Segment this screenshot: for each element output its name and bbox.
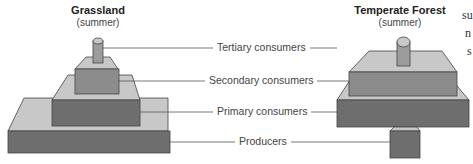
forest-subtitle: (summer) bbox=[350, 17, 450, 28]
label-producers: Producers bbox=[235, 135, 291, 147]
label-tertiary-consumers: Tertiary consumers bbox=[213, 41, 310, 53]
grassland-subtitle: (summer) bbox=[60, 17, 136, 28]
side-text-1: su bbox=[462, 8, 473, 23]
label-primary-consumers: Primary consumers bbox=[213, 105, 311, 117]
label-secondary-consumers: Secondary consumers bbox=[205, 74, 317, 86]
side-text-3: s bbox=[467, 44, 472, 59]
grassland-title: Grassland bbox=[60, 4, 136, 16]
side-text-2: n bbox=[465, 26, 471, 41]
forest-title: Temperate Forest bbox=[350, 4, 450, 16]
